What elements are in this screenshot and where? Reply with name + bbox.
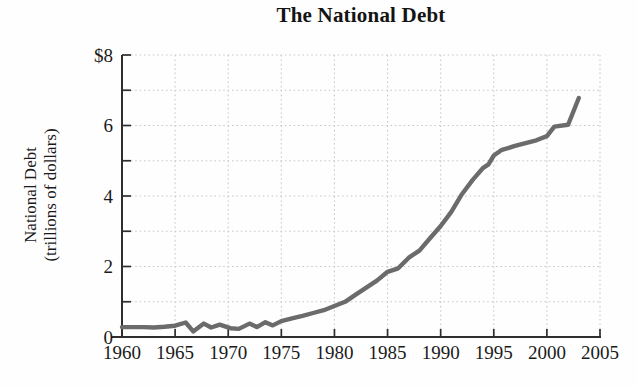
- national-debt-chart: The National Debt National Debt (trillio…: [0, 0, 638, 386]
- national-debt-line: [122, 98, 579, 331]
- plot-area: 0246$81960196519701975198019851990199520…: [0, 0, 638, 386]
- x-tick-label: 1985: [369, 342, 407, 363]
- x-tick-label: 2000: [528, 342, 566, 363]
- x-tick-label: 2005: [581, 342, 619, 363]
- x-tick-label: 1965: [156, 342, 194, 363]
- y-tick-label: 6: [104, 115, 114, 136]
- y-tick-label: 2: [104, 256, 114, 277]
- y-tick-label: 4: [104, 186, 114, 207]
- x-tick-label: 1960: [103, 342, 141, 363]
- x-tick-label: 1970: [209, 342, 247, 363]
- x-tick-label: 1980: [315, 342, 353, 363]
- x-tick-label: 1975: [262, 342, 300, 363]
- x-tick-label: 1995: [475, 342, 513, 363]
- x-tick-label: 1990: [422, 342, 460, 363]
- y-tick-label: $8: [94, 45, 113, 66]
